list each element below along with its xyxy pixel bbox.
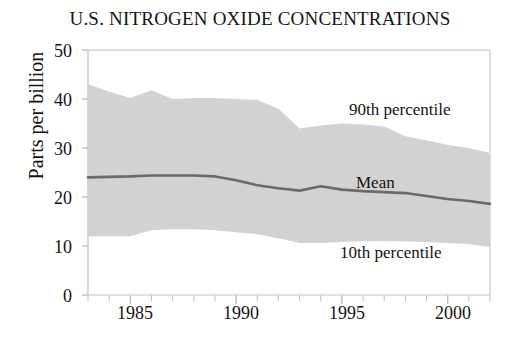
x-tick-label: 1995 <box>312 303 382 324</box>
y-tick-label: 40 <box>32 90 72 111</box>
chart-figure: U.S. NITROGEN OXIDE CONCENTRATIONS Parts… <box>0 0 520 343</box>
annotation-90th-percentile: 90th percentile <box>349 100 451 120</box>
y-tick-label: 0 <box>32 286 72 307</box>
x-tick-label: 1990 <box>206 303 276 324</box>
x-tick-label: 2000 <box>418 303 488 324</box>
plot-area <box>0 0 520 343</box>
x-tick-label: 1985 <box>100 303 170 324</box>
y-tick-label: 30 <box>32 139 72 160</box>
annotation-10th-percentile: 10th percentile <box>340 243 442 263</box>
y-tick-label: 10 <box>32 237 72 258</box>
y-tick-label: 20 <box>32 188 72 209</box>
y-tick-label: 50 <box>32 41 72 62</box>
annotation-mean: Mean <box>356 173 395 193</box>
